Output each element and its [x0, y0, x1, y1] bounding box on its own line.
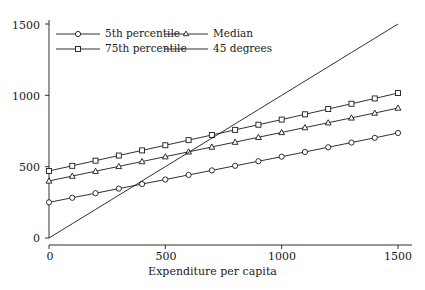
y-tick-label: 500	[0, 162, 40, 173]
series-line	[49, 93, 398, 171]
data-point-square-icon	[302, 112, 307, 117]
legend-sample-triangle-icon	[164, 28, 208, 40]
y-tick-label: 0	[0, 233, 40, 244]
data-series	[49, 24, 398, 238]
data-point-square-icon	[396, 91, 401, 96]
data-point-square-icon	[70, 163, 75, 168]
data-point-square-icon	[326, 107, 331, 112]
data-point-circle-icon	[256, 159, 261, 164]
legend-sample-circle-icon	[56, 28, 100, 40]
data-series	[46, 105, 401, 183]
x-tick-label: 1500	[374, 251, 422, 262]
data-point-circle-icon	[70, 195, 75, 200]
legend-row: 5th percentile Median	[56, 26, 272, 41]
data-point-square-icon	[116, 153, 121, 158]
legend-row: 75th percentile 45 degrees	[56, 41, 272, 56]
y-tick-label: 1000	[0, 91, 40, 102]
data-point-circle-icon	[372, 135, 377, 140]
data-point-circle-icon	[395, 130, 400, 135]
data-point-square-icon	[279, 117, 284, 122]
data-point-square-icon	[349, 101, 354, 106]
legend-item-5th-percentile[interactable]: 5th percentile	[56, 28, 164, 40]
legend-item-75th-percentile[interactable]: 75th percentile	[56, 43, 164, 55]
data-point-circle-icon	[163, 177, 168, 182]
legend-item-45-degrees[interactable]: 45 degrees	[164, 43, 272, 55]
data-point-square-icon	[93, 158, 98, 163]
legend-item-median[interactable]: Median	[164, 28, 253, 40]
data-point-circle-icon	[349, 140, 354, 145]
data-point-circle-icon	[279, 154, 284, 159]
data-point-square-icon	[372, 96, 377, 101]
data-series	[47, 91, 401, 174]
data-series-group	[46, 24, 401, 238]
data-point-triangle-icon	[395, 105, 401, 110]
chart-container: 0 500 1000 1500 0 500 1000 1500 Expendit…	[0, 0, 425, 290]
data-point-circle-icon	[326, 145, 331, 150]
series-line	[49, 24, 398, 238]
legend-label: 45 degrees	[213, 43, 272, 54]
series-line	[49, 133, 398, 202]
data-series	[46, 130, 400, 205]
series-line	[49, 108, 398, 181]
legend-sample-square-icon	[56, 43, 100, 55]
x-tick-label: 1000	[258, 251, 306, 262]
data-point-square-icon	[256, 122, 261, 127]
legend-label: Median	[213, 28, 253, 39]
data-point-square-icon	[140, 148, 145, 153]
data-point-circle-icon	[186, 172, 191, 177]
data-point-square-icon	[47, 168, 52, 173]
data-point-square-icon	[186, 138, 191, 143]
data-point-circle-icon	[233, 163, 238, 168]
data-point-circle-icon	[93, 191, 98, 196]
data-point-circle-icon	[302, 149, 307, 154]
y-tick-label: 1500	[0, 20, 40, 31]
data-point-circle-icon	[209, 168, 214, 173]
data-point-square-icon	[233, 127, 238, 132]
chart-legend: 5th percentile Median	[56, 26, 272, 56]
x-tick-label: 500	[142, 251, 190, 262]
data-point-square-icon	[163, 143, 168, 148]
data-point-circle-icon	[116, 186, 121, 191]
x-tick-label: 0	[26, 251, 74, 262]
axis-tickmarks	[45, 24, 398, 249]
legend-sample-line-icon	[164, 43, 208, 55]
data-point-circle-icon	[46, 200, 51, 205]
x-axis-title: Expenditure per capita	[0, 266, 425, 277]
